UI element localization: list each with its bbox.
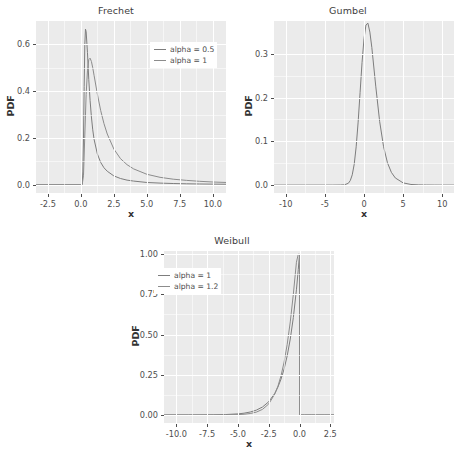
y-tick-label: 0.3	[232, 49, 268, 59]
gridline-major-v	[269, 251, 270, 423]
y-tick-label: 0.25	[116, 370, 158, 380]
y-tick-label: 1.00	[116, 249, 158, 259]
legend-label: alpha = 0.5	[167, 45, 214, 54]
x-tick-mark	[364, 194, 365, 197]
gridline-major-v	[114, 21, 115, 193]
gridline-major-v	[364, 21, 365, 193]
gridline-major-h	[164, 294, 334, 295]
axis-title-x-gumbel: x	[274, 208, 454, 219]
multi-panel-figure: Frechet 0.00.20.40.6 -2.50.02.55.07.510.…	[0, 0, 464, 463]
gridline-major-v	[48, 21, 49, 193]
legend-label: alpha = 1	[167, 56, 207, 65]
gridline-major-h	[164, 375, 334, 376]
panel-title-gumbel: Gumbel	[232, 4, 464, 17]
gridline-major-h	[36, 138, 226, 139]
gridline-minor-v	[64, 21, 65, 193]
gridline-minor-v	[315, 251, 316, 423]
x-tick-mark	[300, 424, 301, 427]
legend-line-icon	[157, 270, 171, 281]
plot-area-gumbel	[274, 21, 454, 193]
gridline-major-h	[36, 91, 226, 92]
gridline-minor-h	[164, 355, 334, 356]
x-tick-mark	[269, 424, 270, 427]
legend-line-icon	[153, 55, 167, 66]
x-tick-mark	[176, 424, 177, 427]
y-tick-mark	[33, 44, 36, 45]
gridline-major-h	[164, 415, 334, 416]
legend-item[interactable]: alpha = 1	[153, 55, 214, 66]
gridline-major-v	[300, 251, 301, 423]
gridline-minor-v	[284, 251, 285, 423]
y-tick-label: 0.2	[0, 133, 30, 143]
gridline-minor-v	[223, 251, 224, 423]
gridline-minor-v	[423, 21, 424, 193]
y-tick-label: 0.6	[0, 39, 30, 49]
y-tick-mark	[161, 335, 164, 336]
x-tick-mark	[48, 194, 49, 197]
y-tick-mark	[161, 294, 164, 295]
legend-item[interactable]: alpha = 1.2	[157, 281, 218, 292]
gridline-major-v	[81, 21, 82, 193]
legend-line-icon	[157, 281, 171, 292]
gridline-major-v	[325, 21, 326, 193]
panel-title-weibull: Weibull	[116, 234, 348, 247]
gridline-major-h	[164, 335, 334, 336]
gridline-minor-v	[130, 21, 131, 193]
y-tick-label: 0.75	[116, 289, 158, 299]
x-tick-mark	[213, 194, 214, 197]
y-tick-mark	[271, 98, 274, 99]
gridline-major-v	[403, 21, 404, 193]
gridline-major-v	[147, 21, 148, 193]
panel-weibull: Weibull 0.000.250.500.751.00 -10.0-7.5-5…	[116, 234, 348, 462]
gridline-minor-v	[97, 21, 98, 193]
x-tick-mark	[180, 194, 181, 197]
x-tick-mark	[207, 424, 208, 427]
legend-item[interactable]: alpha = 1	[157, 270, 218, 281]
y-tick-label: 0.0	[232, 180, 268, 190]
gridline-minor-h	[164, 395, 334, 396]
axis-title-y-frechet: PDF	[0, 98, 23, 112]
x-tick-mark	[442, 194, 443, 197]
axis-title-x-weibull: x	[164, 438, 334, 449]
legend-label: alpha = 1	[171, 271, 211, 280]
y-tick-label: 0.1	[232, 136, 268, 146]
panel-frechet: Frechet 0.00.20.40.6 -2.50.02.55.07.510.…	[0, 4, 232, 232]
y-tick-mark	[33, 138, 36, 139]
x-tick-mark	[238, 424, 239, 427]
x-tick-mark	[330, 424, 331, 427]
axis-title-y-weibull: PDF	[122, 328, 148, 342]
gridline-minor-v	[344, 21, 345, 193]
y-tick-label: 0.0	[0, 180, 30, 190]
gridline-major-h	[36, 185, 226, 186]
gridline-major-v	[238, 251, 239, 423]
y-tick-label: 0.00	[116, 410, 158, 420]
gridline-minor-v	[253, 251, 254, 423]
gridline-minor-v	[305, 21, 306, 193]
x-tick-mark	[325, 194, 326, 197]
legend-line-icon	[153, 44, 167, 55]
legend-item[interactable]: alpha = 0.5	[153, 44, 214, 55]
axis-title-x-frechet: x	[36, 208, 226, 219]
gridline-major-v	[286, 21, 287, 193]
x-tick-mark	[81, 194, 82, 197]
y-tick-mark	[33, 185, 36, 186]
gridline-major-v	[330, 251, 331, 423]
x-tick-mark	[147, 194, 148, 197]
legend-weibull[interactable]: alpha = 1alpha = 1.2	[154, 268, 221, 294]
y-tick-mark	[161, 254, 164, 255]
gridline-minor-h	[164, 314, 334, 315]
y-tick-mark	[33, 91, 36, 92]
axis-title-y-gumbel: PDF	[235, 98, 261, 112]
gridline-major-h	[164, 254, 334, 255]
x-tick-mark	[114, 194, 115, 197]
x-tick-mark	[286, 194, 287, 197]
panel-gumbel: Gumbel 0.00.10.20.3 -10-50510 x PDF	[232, 4, 464, 232]
y-tick-mark	[271, 185, 274, 186]
gridline-minor-v	[384, 21, 385, 193]
gridline-major-v	[442, 21, 443, 193]
y-tick-mark	[271, 54, 274, 55]
y-tick-mark	[161, 415, 164, 416]
y-tick-mark	[161, 375, 164, 376]
legend-label: alpha = 1.2	[171, 282, 218, 291]
legend-frechet[interactable]: alpha = 0.5alpha = 1	[150, 42, 217, 68]
